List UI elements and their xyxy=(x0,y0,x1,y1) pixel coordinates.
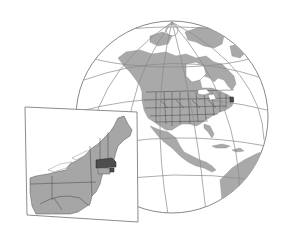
massachusetts-marker xyxy=(230,97,234,102)
location-map: Location map of Massachusetts xyxy=(0,0,283,234)
map-svg xyxy=(0,0,283,234)
inset-map xyxy=(25,107,138,222)
massachusetts-highlight xyxy=(96,158,116,168)
rhode-island xyxy=(110,168,114,172)
